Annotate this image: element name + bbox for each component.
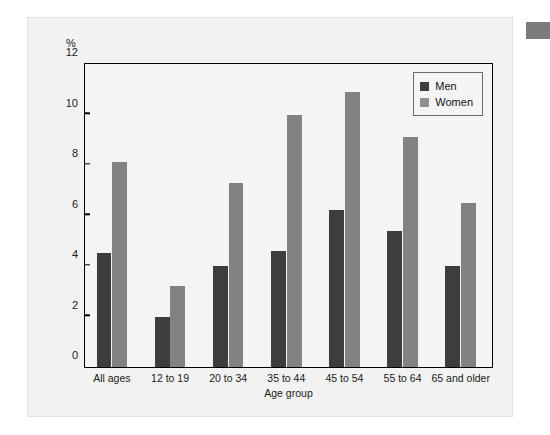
x-axis-tick-label: 20 to 34 xyxy=(209,372,247,384)
y-axis-tick-label: 2 xyxy=(72,299,78,311)
x-axis-tick-label: All ages xyxy=(93,372,130,384)
x-axis-tick-label: 12 to 19 xyxy=(151,372,189,384)
legend-item-label: Women xyxy=(435,96,473,108)
bar-women xyxy=(287,115,302,368)
x-axis-tick-label: 45 to 54 xyxy=(325,372,363,384)
bar-group: All ages xyxy=(85,64,143,367)
bar-men xyxy=(213,266,228,367)
bar-women xyxy=(345,92,360,367)
bar-men xyxy=(155,317,170,368)
bar-women xyxy=(403,137,418,367)
legend-item-label: Men xyxy=(435,80,456,92)
bar-men xyxy=(445,266,460,367)
y-axis-tick-label: 12 xyxy=(66,46,78,58)
y-axis-tick-label: 10 xyxy=(66,97,78,109)
chart-legend: MenWomen xyxy=(413,72,483,116)
x-axis-tick-label: 55 to 64 xyxy=(384,372,422,384)
bar-women xyxy=(170,286,185,367)
bar-men xyxy=(329,210,344,367)
bar-men xyxy=(387,231,402,367)
plot-frame: 024681012All ages12 to 1920 to 3435 to 4… xyxy=(84,63,493,368)
chart-page: % 024681012All ages12 to 1920 to 3435 to… xyxy=(0,0,550,435)
bar-women xyxy=(461,203,476,367)
legend-swatch-icon xyxy=(420,98,429,107)
legend-item: Women xyxy=(420,94,473,110)
x-axis-title: Age group xyxy=(264,387,312,399)
bar-women xyxy=(229,183,244,367)
x-axis-tick-label: 35 to 44 xyxy=(267,372,305,384)
bar-group: 12 to 19 xyxy=(143,64,201,367)
bar-group: 35 to 44 xyxy=(259,64,317,367)
bar-women xyxy=(112,162,127,367)
x-axis-tick-label: 65 and older xyxy=(432,372,490,384)
y-axis-tick-label: 4 xyxy=(72,248,78,260)
y-axis-tick-label: 0 xyxy=(72,349,78,361)
y-axis-tick-label: 8 xyxy=(72,147,78,159)
bar-group: 20 to 34 xyxy=(201,64,259,367)
bar-men xyxy=(271,251,286,367)
legend-item: Men xyxy=(420,78,473,94)
y-axis-tick-label: 6 xyxy=(72,198,78,210)
bar-group: 45 to 54 xyxy=(318,64,376,367)
bar-men xyxy=(97,253,112,367)
figure-card: % 024681012All ages12 to 1920 to 3435 to… xyxy=(27,17,513,417)
legend-swatch-icon xyxy=(420,82,429,91)
corner-marker-block xyxy=(526,22,550,39)
